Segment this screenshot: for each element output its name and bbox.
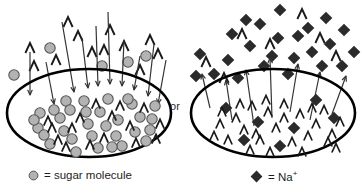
water-molecule-caret [272, 124, 280, 133]
arrow-shaft [332, 76, 346, 114]
water-molecule-caret [296, 110, 304, 119]
sugar-molecule-circle-icon [28, 170, 39, 181]
arrow-shaft [246, 70, 254, 126]
sugar-molecule-circle [9, 70, 19, 80]
sodium-ion-diamond [274, 140, 287, 153]
arrow-shaft [62, 22, 74, 92]
water-molecule-caret [252, 130, 260, 139]
sugar-molecule-circle [107, 142, 117, 152]
water-molecule-caret [232, 114, 240, 123]
legend-sodium-charge: + [293, 169, 298, 178]
water-molecule-caret [201, 57, 210, 67]
arrow-shaft [46, 62, 54, 104]
sugar-molecule-circle [150, 101, 160, 111]
water-molecule-caret [265, 39, 274, 49]
water-molecule-caret [280, 100, 288, 109]
water-molecule-caret [25, 43, 34, 53]
water-molecule-caret [246, 146, 254, 155]
water-molecule-caret [312, 120, 320, 129]
legend-sugar-text: = sugar molecule [44, 170, 132, 182]
sodium-ion-diamond [226, 28, 239, 41]
sodium-ion-diamond [190, 70, 203, 83]
sodium-solution-cell-panel [184, 0, 362, 195]
sodium-ion-diamond [272, 32, 285, 45]
water-molecule-caret [237, 29, 246, 39]
legend-sodium-label: Na [278, 171, 293, 183]
water-molecule-caret [51, 55, 60, 65]
water-molecule-caret [304, 132, 312, 141]
osmosis-diagram: or = sugar molecule = Na+ [0, 0, 362, 195]
sugar-molecule-circle [147, 114, 157, 124]
sodium-ion-diamond [292, 30, 305, 43]
sugar-molecule-circle [49, 105, 59, 115]
sugar-molecule-circle [135, 112, 145, 122]
sodium-ion-diamond [302, 22, 315, 35]
or-connector-label: or [164, 100, 186, 112]
water-molecule-caret [264, 108, 272, 117]
sodium-ion-diamond [266, 50, 279, 63]
sodium-ion-diamond [348, 46, 361, 59]
water-molecule-caret [210, 132, 218, 141]
water-influx-arrow [108, 12, 112, 84]
water-molecule-caret [99, 45, 108, 55]
water-molecule-caret [116, 101, 124, 110]
legend-sodium-ion: = Na+ [250, 170, 297, 183]
water-molecule-caret [288, 138, 296, 147]
water-molecule-caret [216, 120, 224, 129]
water-molecule-caret [315, 33, 324, 43]
sodium-cell-illustration [184, 0, 362, 195]
water-molecule-caret [108, 111, 116, 120]
sodium-ion-diamond [320, 12, 333, 25]
sodium-ion-diamond [288, 122, 301, 135]
sugar-molecule-circle [45, 43, 55, 53]
water-molecule-caret [48, 123, 56, 132]
sugar-molecule-circle [71, 147, 81, 157]
sugar-molecule-circle [101, 121, 111, 131]
water-influx-arrow [28, 52, 32, 95]
sodium-ion-diamond [324, 38, 337, 51]
sugar-molecule-circle [87, 131, 97, 141]
sodium-ion-diamond [222, 54, 235, 67]
water-molecule-caret [331, 51, 340, 61]
sodium-ion-diamond [316, 60, 329, 73]
sugar-molecule-circle [145, 125, 155, 135]
sugar-molecule-circle [123, 94, 133, 104]
sodium-ion-diamond [274, 4, 287, 17]
water-molecule-caret [86, 140, 94, 149]
water-molecule-caret [92, 99, 100, 108]
sugar-molecule-circle [79, 96, 89, 106]
sugar-molecule-circle [81, 107, 91, 117]
sugar-molecule-circle [83, 119, 93, 129]
sodium-ion-diamond [208, 68, 221, 81]
sugar-molecule-circle [141, 136, 151, 146]
water-molecule-caret [332, 144, 340, 153]
water-influx-arrow [46, 62, 55, 104]
water-molecule-caret [73, 31, 82, 41]
arrow-shaft [134, 56, 140, 90]
water-molecule-caret [236, 100, 244, 109]
water-molecule-caret [63, 17, 72, 27]
water-molecule-caret [297, 9, 306, 19]
water-molecule-caret [262, 96, 270, 105]
sodium-ion-diamond [238, 134, 251, 147]
sodium-ion-diamond-icon [250, 170, 263, 183]
water-molecule-caret [132, 138, 140, 147]
arrow-shaft [270, 58, 272, 118]
water-efflux-arrow [245, 70, 254, 126]
sugar-molecule-circle [111, 131, 121, 141]
water-molecule-caret [224, 136, 232, 145]
legend-sodium-text: = Na+ [268, 170, 297, 183]
water-molecule-caret [320, 106, 328, 115]
water-molecule-caret [240, 126, 248, 135]
legend-sugar-molecule: = sugar molecule [28, 170, 132, 182]
arrow-shaft [108, 12, 110, 84]
water-molecule-caret [140, 103, 148, 112]
water-molecule-caret [54, 135, 62, 144]
water-molecule-caret [280, 114, 288, 123]
sugar-molecule-circle [130, 127, 140, 137]
water-molecule-caret [105, 25, 114, 35]
water-molecule-caret [145, 35, 154, 45]
sodium-ion-diamond [252, 116, 265, 129]
arrow-shaft [82, 38, 88, 88]
sugar-molecule-circle [141, 51, 151, 61]
